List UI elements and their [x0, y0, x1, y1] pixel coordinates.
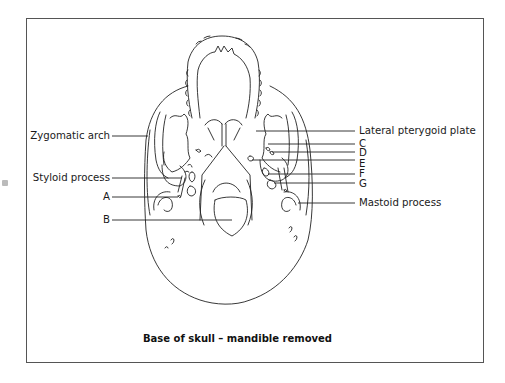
right-mastoid	[282, 197, 296, 211]
label-zygomatic-arch: Zygomatic arch	[28, 130, 110, 141]
label-styloid-process: Styloid process	[28, 172, 110, 183]
label-g: G	[359, 178, 367, 189]
left-mastoid	[158, 197, 172, 211]
label-mastoid-process: Mastoid process	[359, 197, 441, 208]
label-d: D	[359, 147, 367, 158]
foramen-magnum	[214, 197, 247, 236]
figure-caption: Base of skull – mandible removed	[143, 333, 332, 344]
label-lateral-pterygoid-plate: Lateral pterygoid plate	[359, 125, 476, 136]
label-b: B	[28, 214, 110, 225]
label-a: A	[28, 191, 110, 202]
